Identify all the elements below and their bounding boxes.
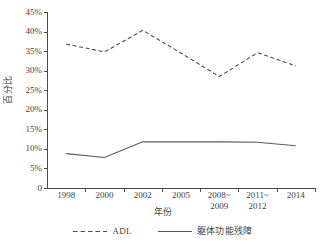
legend-item-physical-disability[interactable]: 躯体功能残障 bbox=[158, 226, 253, 236]
plot-area bbox=[47, 12, 315, 188]
y-axis-tick-label: 15% bbox=[12, 125, 42, 134]
legend-label-adl: ADL bbox=[112, 226, 131, 236]
x-axis-line bbox=[47, 188, 315, 189]
legend-label-physical-disability: 躯体功能残障 bbox=[197, 226, 253, 236]
chart-legend: ADL 躯体功能残障 bbox=[0, 226, 326, 236]
y-axis-tick-label: 35% bbox=[12, 47, 42, 56]
solid-line-icon bbox=[158, 228, 192, 235]
y-axis-tick-label: 25% bbox=[12, 86, 42, 95]
y-axis-tick-label: 5% bbox=[12, 164, 42, 173]
y-axis-tick-label: 40% bbox=[12, 27, 42, 36]
series-line-physical-disability bbox=[66, 142, 296, 158]
y-axis-tick-label: 0 bbox=[12, 184, 42, 193]
dashed-line-icon bbox=[73, 228, 107, 235]
y-axis-tick-label: 45% bbox=[12, 8, 42, 17]
line-chart: 百分比 45%40%35%30%25%20%15%10%5%0 19982000… bbox=[0, 0, 326, 248]
legend-item-adl[interactable]: ADL bbox=[73, 226, 131, 236]
x-axis-tick-label: 2014 bbox=[271, 190, 321, 201]
y-axis-tick-label: 10% bbox=[12, 144, 42, 153]
y-axis-tick-label: 20% bbox=[12, 105, 42, 114]
y-axis-tick bbox=[44, 188, 48, 189]
x-axis-title: 年份 bbox=[0, 207, 326, 218]
y-axis-tick-label: 30% bbox=[12, 66, 42, 75]
series-line-adl bbox=[66, 30, 296, 76]
series-lines bbox=[47, 12, 315, 188]
